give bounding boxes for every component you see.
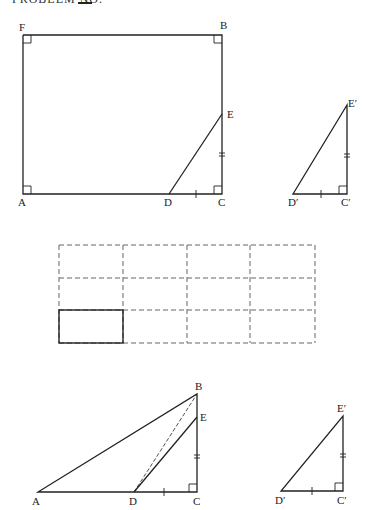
right-angle-B xyxy=(214,35,222,43)
right-angle-C-prime-bottom xyxy=(335,483,343,491)
label-B: B xyxy=(220,19,227,31)
label-C-prime-bottom: C′ xyxy=(337,494,347,506)
triangle-ABC xyxy=(38,394,197,492)
segment-DB-dashed xyxy=(134,394,197,492)
label-D-bottom: D xyxy=(129,495,137,507)
right-angle-A xyxy=(23,186,31,194)
label-A: A xyxy=(18,196,26,208)
label-C: C xyxy=(218,196,225,208)
bottom-triangle-figure xyxy=(38,394,200,496)
rectangle-figure xyxy=(23,35,225,198)
label-A-bottom: A xyxy=(32,495,40,507)
label-E-prime-bottom: E′ xyxy=(337,402,346,414)
label-E-bottom: E xyxy=(200,411,207,423)
triangle-prime-bottom xyxy=(281,416,346,495)
label-E: E xyxy=(227,108,234,120)
label-E-prime: E′ xyxy=(348,97,357,109)
label-D-prime: D′ xyxy=(288,196,298,208)
label-D-prime-bottom: D′ xyxy=(275,494,285,506)
segment-DE-bottom xyxy=(134,417,197,492)
right-angle-C xyxy=(214,186,222,194)
highlighted-cell xyxy=(59,310,123,343)
geometry-diagram: F B E A D C E′ D′ C′ B E A D C xyxy=(0,0,367,510)
label-C-bottom: C xyxy=(193,495,200,507)
label-B-bottom: B xyxy=(195,380,202,392)
label-D: D xyxy=(164,196,172,208)
right-angle-C-bottom xyxy=(189,484,197,492)
label-C-prime: C′ xyxy=(341,196,351,208)
rectangle-outline xyxy=(23,35,222,194)
right-angle-C-prime xyxy=(339,186,347,194)
triangle-outline-bottom xyxy=(281,416,343,491)
segment-DE xyxy=(169,114,222,194)
right-angle-F xyxy=(23,35,31,43)
triangle-outline xyxy=(293,105,347,194)
triangle-prime-top xyxy=(293,105,350,198)
label-F: F xyxy=(19,21,25,33)
dashed-grid xyxy=(59,245,315,343)
